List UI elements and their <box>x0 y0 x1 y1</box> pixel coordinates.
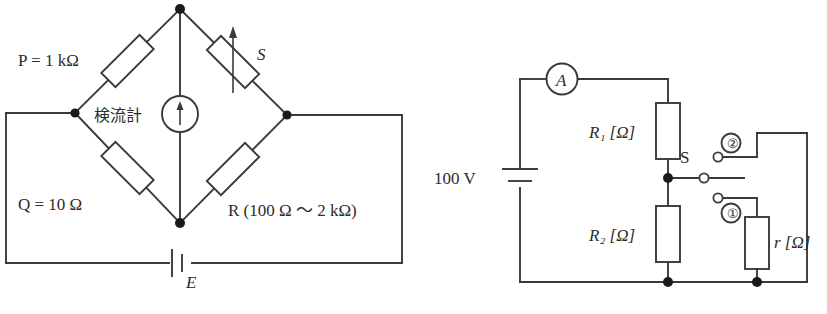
node-bottom-r <box>752 277 762 287</box>
node-bottom-left-circuit <box>175 218 185 228</box>
label-source-voltage: 100 V <box>434 169 476 188</box>
label-battery-e: E <box>185 273 197 292</box>
battery-100v <box>503 169 537 181</box>
label-q: Q = 10 Ω <box>18 195 82 214</box>
label-r: R (100 Ω ～ 2 kΩ) <box>228 201 357 220</box>
label-ammeter: A <box>555 71 567 90</box>
switch-terminal-1-contact[interactable] <box>713 193 722 202</box>
label-r2: R₂ [Ω] <box>588 226 635 245</box>
branch-r-small <box>745 217 769 282</box>
node-top-left-circuit <box>175 4 185 14</box>
circuit-diagram-svg: P = 1 kΩ Q = 10 Ω S R (100 Ω ～ 2 kΩ) 検流計… <box>0 0 827 314</box>
ammeter-symbol: A <box>547 64 578 95</box>
node-left-left-circuit <box>70 108 79 117</box>
label-switch-s: S <box>680 148 689 167</box>
battery-e <box>172 250 182 276</box>
figure-canvas: P = 1 kΩ Q = 10 Ω S R (100 Ω ～ 2 kΩ) 検流計… <box>0 0 827 314</box>
node-right-left-circuit <box>282 110 291 119</box>
branch-r2 <box>656 178 680 282</box>
label-terminal-1: ① <box>727 206 739 221</box>
resistor-p <box>101 35 153 87</box>
label-p: P = 1 kΩ <box>18 51 79 70</box>
galvanometer-branch <box>162 9 198 223</box>
label-terminal-2: ② <box>727 136 739 151</box>
terminal-number-2: ② <box>722 134 741 153</box>
terminal-number-1: ① <box>722 204 741 223</box>
branch-r1 <box>656 79 680 178</box>
switch-terminal-2-contact[interactable] <box>713 152 722 161</box>
label-s: S <box>257 45 266 64</box>
label-r1: R₁ [Ω] <box>588 123 635 142</box>
resistor-r <box>207 143 259 195</box>
label-r-small: r [Ω] <box>774 233 810 252</box>
node-divider-mid <box>663 173 673 183</box>
node-bottom-mid <box>663 277 673 287</box>
label-galvanometer: 検流計 <box>94 106 142 125</box>
right-circuit-group: A <box>434 64 810 288</box>
left-circuit-group: P = 1 kΩ Q = 10 Ω S R (100 Ω ～ 2 kΩ) 検流計… <box>6 4 402 292</box>
supply-loop-left <box>6 113 402 263</box>
switch-common-contact[interactable] <box>699 173 708 182</box>
resistor-q <box>101 142 153 194</box>
